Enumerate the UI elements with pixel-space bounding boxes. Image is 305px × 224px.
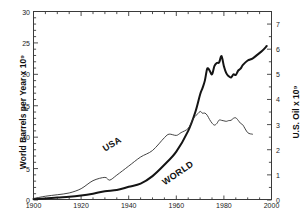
left-tick-5: 5 [6, 165, 30, 172]
x-tick-2000: 2000 [264, 202, 280, 209]
left-tick-20: 20 [6, 71, 30, 78]
x-tick-1960: 1960 [169, 202, 185, 209]
left-tick-10: 10 [6, 134, 30, 141]
figure-container: World Barrels per Year x 10⁹ U.S. Oil x … [0, 0, 305, 224]
figure-caption [0, 216, 305, 224]
x-tick-1940: 1940 [121, 202, 137, 209]
right-tick-1: 1 [276, 171, 280, 178]
right-tick-4: 4 [276, 96, 280, 103]
right-tick-6: 6 [276, 46, 280, 53]
left-tick-15: 15 [6, 102, 30, 109]
right-tick-5: 5 [276, 71, 280, 78]
right-tick-3: 3 [276, 121, 280, 128]
left-tick-30: 30 [6, 8, 30, 15]
x-tick-1920: 1920 [73, 202, 89, 209]
left-axis-title: World Barrels per Year x 10⁹ [18, 42, 28, 182]
right-tick-7: 7 [276, 21, 280, 28]
x-tick-1980: 1980 [216, 202, 232, 209]
x-tick-1900: 1900 [26, 202, 42, 209]
right-tick-2: 2 [276, 146, 280, 153]
right-axis-title: U.S. Oil x 10⁹ [291, 52, 301, 172]
plot-area [33, 11, 272, 200]
left-tick-25: 25 [6, 39, 30, 46]
